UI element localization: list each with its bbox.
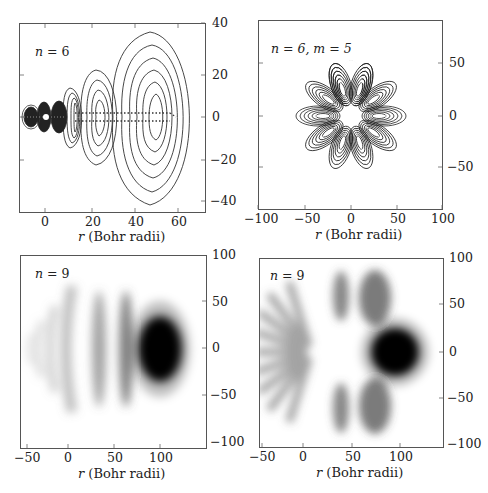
x-tick-label: 0 <box>64 452 72 465</box>
y-tick-label: −50 <box>447 161 473 174</box>
y-tick-label: −100 <box>447 438 481 451</box>
y-tick-label: 50 <box>449 298 465 311</box>
y-tick-label: 0 <box>449 110 457 123</box>
panel-annotation: n = 9 <box>35 266 69 281</box>
panel-annotation: n = 6, m = 5 <box>271 41 352 56</box>
x-axis-label: r (Bohr radii) <box>78 466 165 481</box>
y-tick-label: −20 <box>210 154 236 167</box>
y-tick-label: 100 <box>449 252 473 265</box>
panel-n6-contour: n = 6 0 20 40 60 40 20 0 −20 −40 r (Bohr… <box>0 0 244 246</box>
contour-plot-n6 <box>0 0 244 246</box>
y-tick-label: −40 <box>210 195 236 208</box>
panel-annotation: n = 9 <box>270 268 304 283</box>
y-tick-label: 0 <box>212 342 220 355</box>
x-tick-label: −50 <box>294 213 320 226</box>
contour-plot-n6-m5 <box>244 0 488 246</box>
y-tick-label: 20 <box>212 69 228 82</box>
x-tick-label: 100 <box>149 452 173 465</box>
panel-annotation: n = 6 <box>35 44 69 59</box>
panel-n9-density-a: n = 9 −50 0 50 100 100 50 0 −50 −100 r (… <box>0 246 244 493</box>
x-tick-label: 20 <box>85 216 101 229</box>
y-tick-label: −100 <box>210 436 244 449</box>
x-tick-label: 50 <box>345 451 361 464</box>
panel-n9-density-b: n = 9 −50 0 50 100 100 50 0 −50 −100 r (… <box>244 246 488 493</box>
y-tick-label: 100 <box>212 249 236 262</box>
y-tick-label: 50 <box>212 296 228 309</box>
y-tick-label: 40 <box>212 17 228 30</box>
x-tick-label: 0 <box>41 216 49 229</box>
x-axis-label: r (Bohr radii) <box>78 229 165 244</box>
x-tick-label: 0 <box>347 213 355 226</box>
x-tick-label: 50 <box>107 452 123 465</box>
x-tick-label: 100 <box>431 213 455 226</box>
x-tick-label: 50 <box>390 213 406 226</box>
density-plot-n9-b <box>244 246 488 493</box>
x-tick-label: 0 <box>299 451 307 464</box>
x-tick-label: 100 <box>389 451 413 464</box>
y-tick-label: 0 <box>449 346 457 359</box>
y-tick-label: 0 <box>212 111 220 124</box>
x-tick-label: −50 <box>14 452 40 465</box>
x-tick-label: −100 <box>244 213 278 226</box>
y-tick-label: −50 <box>447 392 473 405</box>
y-tick-label: 50 <box>449 57 465 70</box>
x-axis-label: r (Bohr radii) <box>315 227 402 242</box>
x-axis-label: r (Bohr radii) <box>316 465 403 480</box>
x-tick-label: 60 <box>171 216 187 229</box>
y-tick-label: −50 <box>210 389 236 402</box>
x-tick-label: 40 <box>128 216 144 229</box>
x-tick-label: −50 <box>249 451 275 464</box>
panel-n6-m5-contour: n = 6, m = 5 −100 −50 0 50 100 50 0 −50 … <box>244 0 488 246</box>
